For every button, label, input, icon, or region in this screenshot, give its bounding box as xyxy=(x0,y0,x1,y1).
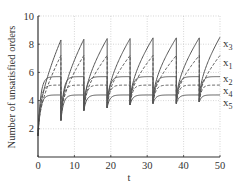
x-axis-label: t xyxy=(128,172,131,183)
y-tick-label: 8 xyxy=(29,39,34,50)
y-tick-label: 4 xyxy=(29,95,35,106)
x-tick-label: 50 xyxy=(215,160,226,171)
x-tick-label: 0 xyxy=(35,160,40,171)
series-line-x4 xyxy=(38,85,220,136)
series-line-x1 xyxy=(38,55,220,135)
series-line-x3 xyxy=(38,37,220,136)
y-tick-labels: 246810 xyxy=(24,11,35,135)
x-tick-label: 20 xyxy=(106,160,117,171)
x-tick-labels: 01020304050 xyxy=(35,160,225,171)
series-lines xyxy=(38,37,220,136)
y-tick-label: 2 xyxy=(29,123,34,134)
series-line-x5 xyxy=(38,95,220,136)
y-tick-label: 10 xyxy=(24,11,35,22)
y-tick-label: 6 xyxy=(29,67,34,78)
y-axis-label: Number of unsatisfied orders xyxy=(6,26,17,149)
series-labels: x3x1x2x4x5 xyxy=(223,37,233,111)
x-tick-label: 10 xyxy=(69,160,80,171)
line-chart: 246810 01020304050 t Number of unsatisfi… xyxy=(0,0,245,190)
x-tick-label: 40 xyxy=(178,160,189,171)
series-label-x3: x3 xyxy=(223,37,233,52)
series-label-x1: x1 xyxy=(223,56,233,71)
x-tick-label: 30 xyxy=(142,160,153,171)
